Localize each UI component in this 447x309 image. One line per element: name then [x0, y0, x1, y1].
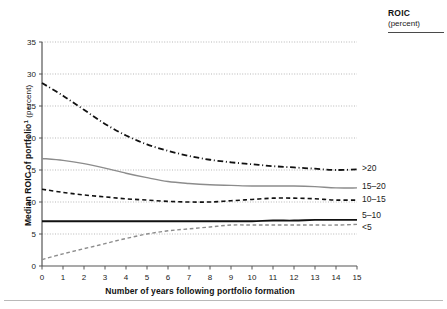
- x-tick-label: 13: [311, 273, 320, 282]
- series-label-15-20: 15–20: [362, 182, 386, 191]
- y-axis-title: Median ROIC of portfolio1 (percent): [23, 45, 34, 265]
- x-tick-label: 2: [82, 273, 87, 282]
- series-line-5-10: [42, 220, 357, 221]
- series-label-<5: <5: [362, 223, 372, 232]
- chart-svg: 05101520253035 0123456789101112131415: [0, 0, 447, 309]
- x-tick-label: 4: [124, 273, 129, 282]
- series-label->20: >20: [362, 164, 376, 173]
- figure-roic-chart: ROIC (percent) 05101520253035 0123456789…: [0, 0, 447, 309]
- series-line->20: [42, 83, 357, 170]
- plot-area: 05101520253035 0123456789101112131415 Me…: [0, 0, 447, 309]
- x-axis-ticks: 0123456789101112131415: [40, 266, 362, 282]
- x-tick-label: 10: [248, 273, 257, 282]
- gridlines: [42, 42, 357, 234]
- y-axis-footnote-marker: 1: [23, 120, 29, 123]
- y-axis-title-main: Median ROIC of portfolio: [23, 124, 33, 227]
- x-tick-label: 9: [229, 273, 234, 282]
- series-label-5-10: 5–10: [362, 211, 381, 220]
- y-axis-unit: (percent): [24, 85, 33, 118]
- x-tick-label: 0: [40, 273, 45, 282]
- x-axis-title: Number of years following portfolio form…: [42, 286, 358, 296]
- x-tick-label: 15: [353, 273, 362, 282]
- series-lines: [42, 83, 357, 260]
- series-line-10-15: [42, 189, 357, 202]
- x-tick-label: 7: [187, 273, 192, 282]
- x-tick-label: 5: [145, 273, 150, 282]
- x-tick-label: 14: [332, 273, 341, 282]
- series-label-10-15: 10–15: [362, 195, 386, 204]
- x-tick-label: 6: [166, 273, 171, 282]
- footer-divider: [4, 300, 443, 301]
- series-line-<5: [42, 224, 357, 259]
- x-tick-label: 11: [269, 273, 278, 282]
- series-line-15-20: [42, 158, 357, 188]
- x-tick-label: 1: [61, 273, 66, 282]
- x-tick-label: 12: [290, 273, 299, 282]
- x-tick-label: 8: [208, 273, 213, 282]
- x-tick-label: 3: [103, 273, 108, 282]
